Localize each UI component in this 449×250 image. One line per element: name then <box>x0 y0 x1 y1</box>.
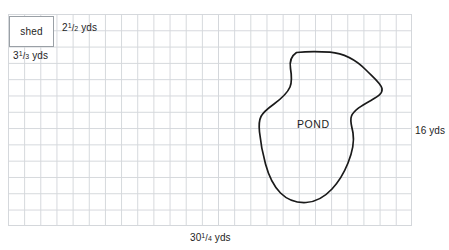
shed-width-denominator: 2 <box>74 25 78 32</box>
yard-width-fraction: 301/4 <box>190 232 212 243</box>
shed-height-denominator: 3 <box>25 53 29 60</box>
pond-label: POND <box>297 118 330 130</box>
yard-width-label: 301/4 yds <box>190 232 231 243</box>
diagram-canvas: shed 21/2 yds 31/3 yds POND 16 yds 301/4… <box>0 0 449 250</box>
shed-height-fraction: 31/3 <box>13 50 29 61</box>
shed-label: shed <box>20 26 43 37</box>
shed-width-fraction: 21/2 <box>62 22 78 33</box>
shed-height-label: 31/3 yds <box>13 50 48 61</box>
yard-width-denominator: 4 <box>208 235 212 242</box>
shed-height-unit: yds <box>32 50 48 61</box>
shed-width-unit: yds <box>81 22 97 33</box>
shed-box: shed <box>9 16 54 47</box>
yard-height-label: 16 yds <box>415 125 445 136</box>
pond-outline <box>0 0 449 250</box>
yard-width-unit: yds <box>215 232 231 243</box>
yard-width-whole: 30 <box>190 232 201 243</box>
shed-width-label: 21/2 yds <box>62 22 97 33</box>
